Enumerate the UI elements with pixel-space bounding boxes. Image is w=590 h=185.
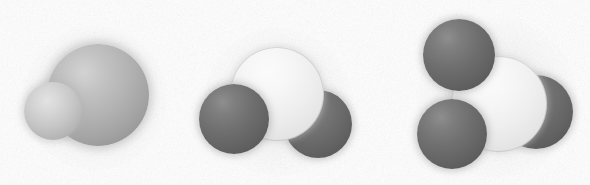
figure-canvas — [0, 0, 590, 185]
molecule-3-upper-left-dark-sphere — [423, 19, 495, 91]
molecule-2-left-dark-sphere — [199, 84, 269, 154]
molecule-3-lower-left-dark-sphere — [417, 99, 487, 169]
molecule-1-attached-sphere — [24, 82, 82, 140]
